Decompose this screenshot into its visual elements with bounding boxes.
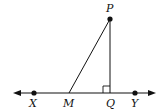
point-y-dot xyxy=(132,90,137,95)
label-x: X xyxy=(28,97,38,110)
left-arrow-icon xyxy=(13,90,21,96)
right-angle-marker xyxy=(103,86,110,93)
geometry-diagram: P X M Q Y xyxy=(0,0,165,110)
label-m: M xyxy=(62,97,75,110)
point-x-dot xyxy=(31,90,36,95)
label-y: Y xyxy=(131,97,140,110)
label-q: Q xyxy=(106,97,115,110)
right-arrow-icon xyxy=(148,90,156,96)
label-p: P xyxy=(105,2,114,15)
segment-pm xyxy=(69,19,110,93)
point-p-dot xyxy=(107,16,112,21)
